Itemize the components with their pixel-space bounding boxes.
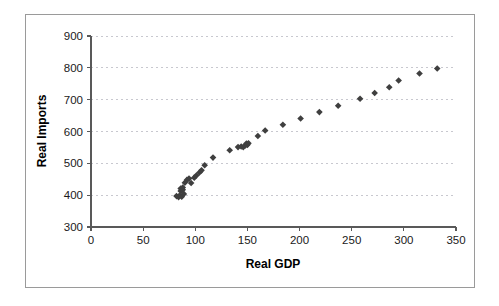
x-tick-label-100: 100 (186, 234, 205, 246)
y-axis-tick-labels: 300400500600700800900 (64, 30, 83, 233)
scatter-plot: 300400500600700800900 050100150200250300… (26, 15, 474, 287)
y-tick-label-900: 900 (64, 30, 83, 42)
x-tick-label-250: 250 (342, 234, 361, 246)
y-axis-title: Real Imports (35, 94, 49, 167)
data-point (335, 102, 342, 109)
data-point (357, 95, 364, 102)
x-tick-label-150: 150 (238, 234, 257, 246)
x-axis-title: Real GDP (246, 257, 301, 271)
data-point (210, 154, 217, 161)
x-tick-label-0: 0 (88, 234, 94, 246)
chart-figure: 300400500600700800900 050100150200250300… (0, 0, 499, 306)
gridlines (91, 36, 456, 195)
data-point (316, 109, 323, 116)
x-tick-label-50: 50 (137, 234, 150, 246)
data-point (416, 70, 423, 77)
y-tick-label-800: 800 (64, 62, 83, 74)
chart-frame: 300400500600700800900 050100150200250300… (25, 14, 475, 288)
x-tick-label-200: 200 (290, 234, 309, 246)
data-point (262, 127, 269, 134)
y-axis-ticks (87, 36, 91, 227)
data-point (255, 133, 262, 140)
data-point (226, 147, 233, 154)
y-tick-label-700: 700 (64, 94, 83, 106)
y-tick-label-300: 300 (64, 221, 83, 233)
x-tick-label-300: 300 (394, 234, 413, 246)
x-axis-ticks (91, 227, 456, 231)
x-axis-tick-labels: 050100150200250300350 (88, 234, 466, 246)
y-tick-label-400: 400 (64, 189, 83, 201)
data-point (371, 90, 378, 97)
y-tick-label-600: 600 (64, 126, 83, 138)
x-tick-label-350: 350 (446, 234, 465, 246)
y-tick-label-500: 500 (64, 157, 83, 169)
data-point-group (173, 65, 440, 200)
data-point (395, 77, 402, 84)
data-point (297, 115, 304, 122)
data-point (434, 65, 441, 72)
data-point (280, 122, 287, 129)
data-point (386, 84, 393, 91)
